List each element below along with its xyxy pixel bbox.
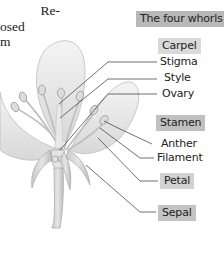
- part-label-anther: Anther: [161, 137, 197, 151]
- part-label-ovary: Ovary: [162, 87, 194, 101]
- part-label-style: Style: [164, 71, 191, 85]
- part-label-filament: Filament: [157, 151, 203, 165]
- group-label-stamen: Stamen: [156, 115, 205, 131]
- group-label-carpel: Carpel: [158, 38, 201, 54]
- group-label-petal: Petal: [160, 173, 194, 189]
- diagram-title: The four whorls: [136, 11, 224, 27]
- part-label-stigma: Stigma: [160, 55, 198, 69]
- group-label-sepal: Sepal: [158, 205, 196, 221]
- stem: [52, 168, 63, 228]
